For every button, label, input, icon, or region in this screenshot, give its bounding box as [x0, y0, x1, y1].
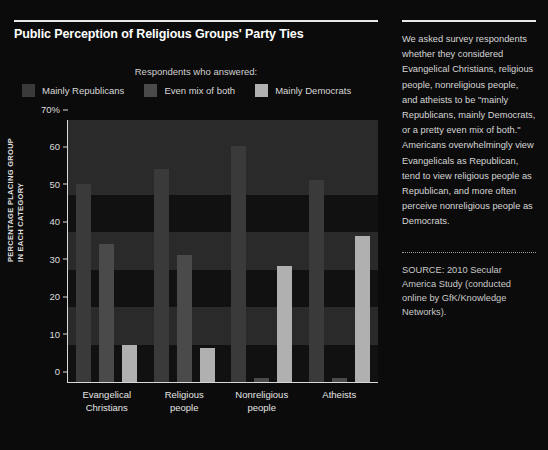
- chart-panel: Public Perception of Religious Groups' P…: [0, 0, 392, 450]
- x-axis-label: Atheists: [301, 388, 379, 414]
- infographic-page: Public Perception of Religious Groups' P…: [0, 0, 548, 450]
- legend-item: Mainly Democrats: [255, 84, 351, 97]
- x-axis-label: Religiouspeople: [146, 388, 224, 414]
- y-axis-tick-label: 70%: [41, 104, 68, 115]
- bar[interactable]: [309, 180, 324, 382]
- bar-groups: [68, 120, 378, 382]
- y-axis-label-line1: PERCENTAGE PLACING GROUP: [6, 138, 15, 262]
- y-axis-tick-label: 10: [49, 328, 68, 339]
- y-axis-tick-label: 60: [49, 141, 68, 152]
- y-axis-label-line2: IN EACH CATEGORY: [16, 183, 25, 262]
- bar[interactable]: [277, 266, 292, 382]
- bar[interactable]: [177, 255, 192, 382]
- y-axis-tick-label: 0: [55, 366, 68, 377]
- bar[interactable]: [122, 345, 137, 382]
- x-axis-label-line: Christians: [68, 401, 146, 414]
- plot-canvas: 70%6050403020100: [68, 120, 378, 382]
- legend-item: Even mix of both: [144, 84, 235, 97]
- y-axis-tick-label: 50: [49, 178, 68, 189]
- bar[interactable]: [200, 348, 215, 382]
- sidebar-divider: [402, 20, 536, 22]
- chart-title: Public Perception of Religious Groups' P…: [14, 27, 384, 41]
- x-axis-labels: EvangelicalChristiansReligiouspeopleNonr…: [68, 388, 378, 414]
- legend-item-label: Mainly Republicans: [42, 85, 124, 96]
- x-axis-label: EvangelicalChristians: [68, 388, 146, 414]
- bar[interactable]: [76, 184, 91, 382]
- x-axis-label-line: Nonreligious: [223, 388, 301, 401]
- legend-swatch-icon: [22, 84, 35, 97]
- x-axis-label-line: people: [146, 401, 224, 414]
- x-axis-label-line: Religious: [146, 388, 224, 401]
- bar[interactable]: [99, 244, 114, 382]
- legend-swatch-icon: [144, 84, 157, 97]
- y-axis-tick-label: 30: [49, 253, 68, 264]
- x-axis-label-line: Evangelical: [68, 388, 146, 401]
- sidebar-blurb: We asked survey respondents whether they…: [402, 32, 536, 230]
- y-axis-tick-label: 20: [49, 291, 68, 302]
- plot-area: PERCENTAGE PLACING GROUP IN EACH CATEGOR…: [0, 112, 392, 432]
- chart-legend: Mainly RepublicansEven mix of bothMainly…: [22, 84, 372, 97]
- bar[interactable]: [332, 378, 347, 382]
- bar-group: [223, 120, 301, 382]
- y-axis-tick-mark: [63, 109, 68, 110]
- bar-group: [68, 120, 146, 382]
- legend-item: Mainly Republicans: [22, 84, 124, 97]
- sidebar-panel: We asked survey respondents whether they…: [392, 0, 548, 450]
- legend-item-label: Even mix of both: [164, 85, 235, 96]
- x-axis-label-line: Atheists: [301, 388, 379, 401]
- sidebar-dotted-divider: [402, 252, 536, 253]
- y-axis-tick-label: 40: [49, 216, 68, 227]
- bar[interactable]: [154, 169, 169, 382]
- legend-swatch-icon: [255, 84, 268, 97]
- x-axis-line: [67, 382, 378, 383]
- sidebar-source: SOURCE: 2010 Secular America Study (cond…: [402, 263, 536, 319]
- bar[interactable]: [355, 236, 370, 382]
- title-divider: [14, 20, 378, 22]
- bar-group: [301, 120, 379, 382]
- x-axis-label-line: people: [223, 401, 301, 414]
- bar[interactable]: [254, 378, 269, 382]
- bar-group: [146, 120, 224, 382]
- legend-heading: Respondents who answered:: [0, 66, 392, 77]
- legend-item-label: Mainly Democrats: [275, 85, 351, 96]
- x-axis-label: Nonreligiouspeople: [223, 388, 301, 414]
- bar[interactable]: [231, 146, 246, 382]
